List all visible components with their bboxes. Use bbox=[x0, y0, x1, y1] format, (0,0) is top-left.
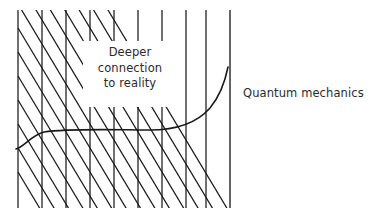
inner-label-line-3: to reality bbox=[104, 76, 157, 90]
hatch-diagonal-line bbox=[18, 148, 240, 218]
inner-label-line-1: Deeper bbox=[109, 45, 152, 59]
hatch-diagonal-line bbox=[18, 0, 240, 218]
hatch-diagonal-line bbox=[18, 0, 240, 218]
quantum-mechanics-label: Quantum mechanics bbox=[243, 86, 364, 101]
hatch-diagonal-line bbox=[18, 0, 240, 218]
hatch-diagonal-line bbox=[18, 0, 240, 218]
diagram-canvas bbox=[0, 0, 383, 218]
inner-region-label: Deeperconnectionto reality bbox=[84, 45, 176, 92]
inner-label-line-2: connection bbox=[98, 61, 162, 75]
hatch-diagonal-line bbox=[18, 0, 234, 218]
hatch-group bbox=[18, 0, 240, 218]
